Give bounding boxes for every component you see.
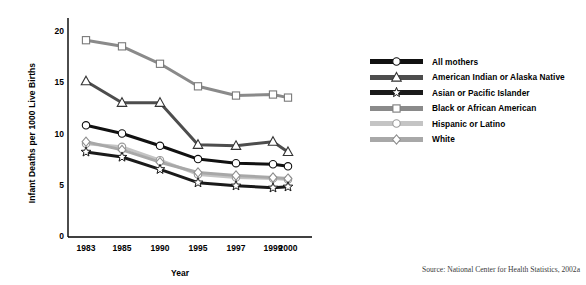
legend-label: All mothers <box>432 57 478 67</box>
legend-label: American Indian or Alaska Native <box>432 72 565 82</box>
data-point-circle <box>393 58 400 65</box>
legend-swatch-square-icon <box>368 101 425 116</box>
data-point-circle <box>393 120 400 127</box>
legend-item-hispanic-or-latino[interactable]: Hispanic or Latino <box>368 116 583 132</box>
data-point-square <box>393 105 400 112</box>
x-tick-label: 1985 <box>102 243 142 253</box>
legend-swatch-circle-icon <box>368 116 425 131</box>
x-tick-label: 1990 <box>140 243 180 253</box>
legend-item-white[interactable]: White <box>368 132 583 148</box>
legend-item-black-or-african-american[interactable]: Black or African American <box>368 101 583 117</box>
chart-legend: All mothersAmerican Indian or Alaska Nat… <box>368 54 583 147</box>
data-point-star <box>392 88 402 97</box>
x-tick-label: 2000 <box>268 243 308 253</box>
legend-item-american-indian-or-alaska-native[interactable]: American Indian or Alaska Native <box>368 70 583 86</box>
plot-area: 05101520 1983198519901995199719992000 In… <box>0 0 340 285</box>
legend-label: Hispanic or Latino <box>432 119 505 129</box>
legend-swatch-diamond-icon <box>368 132 425 147</box>
data-point-diamond <box>393 135 401 144</box>
x-axis-ticks: 1983198519901995199719992000 <box>0 0 340 285</box>
legend-label: White <box>432 134 455 144</box>
legend-label: Black or African American <box>432 103 536 113</box>
x-tick-label: 1997 <box>216 243 256 253</box>
y-axis-title: Infant Deaths per 1000 Live Births <box>27 38 37 228</box>
x-tick-label: 1995 <box>178 243 218 253</box>
legend-item-all-mothers[interactable]: All mothers <box>368 54 583 70</box>
legend-item-asian-or-pacific-islander[interactable]: Asian or Pacific Islander <box>368 85 583 101</box>
source-note: Source: National Center for Health Stati… <box>0 265 580 274</box>
infant-mortality-figure: 05101520 1983198519901995199719992000 In… <box>0 0 586 285</box>
legend-swatch-circle-icon <box>368 54 425 69</box>
legend-label: Asian or Pacific Islander <box>432 88 530 98</box>
legend-swatch-triangle-icon <box>368 70 425 85</box>
x-tick-label: 1983 <box>66 243 106 253</box>
legend-swatch-star-icon <box>368 85 425 100</box>
